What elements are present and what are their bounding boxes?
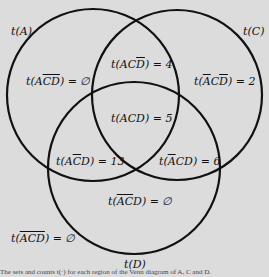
region-D-only: t(ACD) = ∅: [108, 196, 172, 207]
region-AC-notD: t(ACD) = 4: [111, 59, 172, 70]
set-label-C: t(C): [243, 26, 264, 37]
region-A-only: t(ACD) = ∅: [26, 76, 90, 87]
region-A-notC-D: t(ACD) = 13: [56, 156, 124, 167]
region-ACD: t(ACD) = 5: [111, 113, 172, 124]
set-label-A: t(A): [11, 26, 32, 37]
region-C-only: t(ACD) = 2: [194, 76, 255, 87]
caption: The sets and counts t(·) for each region…: [0, 268, 269, 277]
region-notA-C-D: t(ACD) = 6: [159, 156, 220, 167]
region-none: t(ACD) = ∅: [11, 233, 75, 244]
